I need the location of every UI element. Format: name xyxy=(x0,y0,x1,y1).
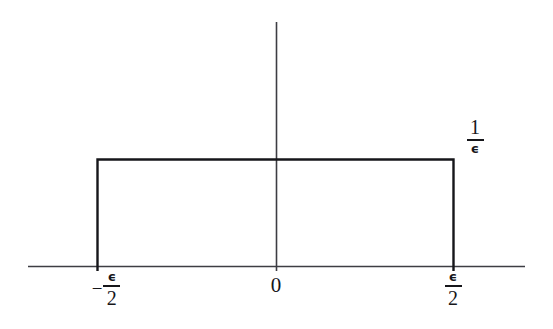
fraction-denominator: 2 xyxy=(446,288,460,308)
fraction-epsilon-over-two: ϵ 2 xyxy=(445,270,462,309)
x-tick-label-origin: 0 xyxy=(256,271,296,299)
y-value-label-one-over-epsilon: 1 ϵ xyxy=(452,117,498,167)
minus-sign: − xyxy=(92,279,103,298)
rectangular-function-figure: − ϵ 2 0 ϵ 2 1 ϵ xyxy=(0,0,553,329)
fraction-one-over-epsilon: 1 ϵ xyxy=(467,117,484,156)
fraction-numerator: 1 xyxy=(468,117,482,137)
fraction-denominator: ϵ xyxy=(469,142,481,155)
fraction-epsilon-over-two-negative: ϵ 2 xyxy=(103,270,120,309)
fraction-numerator: ϵ xyxy=(447,270,459,283)
fraction-numerator: ϵ xyxy=(106,270,118,283)
fraction-denominator: 2 xyxy=(105,288,119,308)
x-tick-label-negative-epsilon-over-two: − ϵ 2 xyxy=(78,270,134,322)
x-tick-label-epsilon-over-two: ϵ 2 xyxy=(427,270,479,322)
rect-pulse-curve xyxy=(98,160,454,272)
